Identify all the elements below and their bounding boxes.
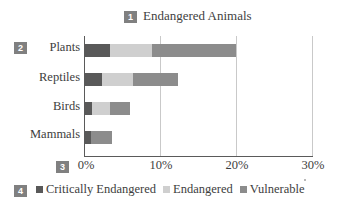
bar-mammals[interactable]	[84, 131, 112, 144]
legend-label: Endangered	[173, 182, 233, 197]
bar-segment-vulnerable	[91, 131, 112, 144]
legend-swatch-icon	[163, 186, 170, 193]
category-axis-line	[84, 156, 313, 157]
legend-item-critically-endangered[interactable]: Critically Endangered	[36, 182, 156, 197]
xtick-0: 0%	[78, 158, 95, 173]
category-label-plants: Plants	[4, 40, 80, 55]
bar-birds[interactable]	[84, 102, 130, 115]
xtick-30: 30%	[302, 158, 325, 173]
callout-badge-4: 4	[14, 185, 27, 197]
bar-segment-endangered	[102, 73, 133, 86]
bar-reptiles[interactable]	[84, 73, 178, 86]
category-label-mammals: Mammals	[4, 127, 80, 142]
bar-segment-endangered	[110, 44, 152, 57]
bar-segment-endangered	[92, 102, 110, 115]
legend-items: Critically Endangered Endangered Vulnera…	[36, 182, 336, 197]
bar-plants[interactable]	[84, 44, 236, 57]
legend-label: Critically Endangered	[46, 182, 156, 197]
callout-badge-1: 1	[124, 11, 137, 23]
value-axis-tick-labels: 3 0% 10% 20% 30%	[0, 158, 340, 176]
bar-segment-vulnerable	[110, 102, 130, 115]
category-axis-labels: 2 Plants Reptiles Birds Mammals	[0, 36, 80, 156]
bar-segment-vulnerable	[133, 73, 178, 86]
gridline-20pct	[236, 36, 237, 156]
bar-segment-critically-endangered	[84, 44, 110, 57]
page-title: Endangered Animals	[143, 8, 252, 24]
legend-item-vulnerable[interactable]: Vulnerable	[240, 182, 305, 197]
bar-segment-critically-endangered	[84, 131, 91, 144]
legend-item-endangered[interactable]: Endangered	[163, 182, 233, 197]
category-label-reptiles: Reptiles	[4, 70, 80, 85]
artifact-speck	[304, 179, 306, 181]
bar-segment-vulnerable	[152, 44, 236, 57]
callout-badge-3: 3	[56, 161, 69, 173]
xtick-20: 20%	[226, 158, 249, 173]
chart-legend: 4 Critically Endangered Endangered Vulne…	[0, 182, 340, 202]
legend-swatch-icon	[36, 186, 43, 193]
bar-segment-critically-endangered	[84, 102, 92, 115]
chart-container: 1 Endangered Animals 2 Plants Reptiles B…	[0, 0, 340, 211]
plot-area	[84, 36, 313, 156]
bar-segment-critically-endangered	[84, 73, 102, 86]
xtick-10: 10%	[150, 158, 173, 173]
legend-swatch-icon	[240, 186, 247, 193]
category-label-birds: Birds	[4, 99, 80, 114]
gridline-30pct	[312, 36, 313, 156]
chart-title-row: 1 Endangered Animals	[0, 8, 340, 26]
legend-label: Vulnerable	[250, 182, 305, 197]
